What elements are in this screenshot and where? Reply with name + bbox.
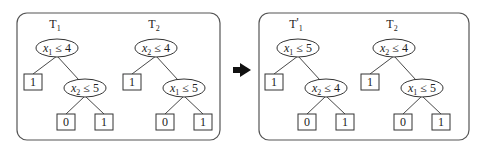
leaf-value: 1 [129, 75, 135, 89]
leaf-value: 1 [367, 75, 373, 89]
root-condition: x2 ≤ 4 [379, 41, 408, 57]
tree-t1: T1x1 ≤ 41x2 ≤ 501 [24, 17, 113, 130]
tree-t2: T2x2 ≤ 41x1 ≤ 501 [123, 17, 212, 130]
internal-condition: x2 ≤ 4 [311, 81, 340, 97]
tree-t1-prime: T'1x1 ≤ 51x2 ≤ 401 [265, 15, 354, 130]
root-condition: x2 ≤ 4 [141, 41, 170, 57]
leaf-value: 1 [271, 75, 277, 89]
leaf-value: 1 [30, 75, 36, 89]
tree-diagram: T1x1 ≤ 41x2 ≤ 501 T2x2 ≤ 41x1 ≤ 501 T'1x… [0, 0, 482, 148]
leaf-value: 1 [101, 115, 107, 129]
arrow-right-icon [233, 63, 251, 77]
internal-condition: x2 ≤ 5 [70, 81, 99, 97]
leaf-value: 1 [438, 115, 444, 129]
tree-label: T2 [148, 17, 159, 33]
leaf-value: 1 [342, 115, 348, 129]
tree-label: T2 [386, 17, 397, 33]
leaf-value: 1 [200, 115, 206, 129]
leaf-value: 0 [63, 115, 69, 129]
tree-label: T'1 [289, 15, 303, 33]
root-condition: x1 ≤ 4 [42, 41, 71, 57]
root-condition: x1 ≤ 5 [283, 41, 312, 57]
tree-t2-after: T2x2 ≤ 41x1 ≤ 501 [361, 17, 450, 130]
leaf-value: 0 [162, 115, 168, 129]
tree-label: T1 [49, 17, 60, 33]
panel-before [17, 13, 220, 140]
leaf-value: 0 [304, 115, 310, 129]
internal-condition: x1 ≤ 5 [407, 81, 436, 97]
leaf-value: 0 [400, 115, 406, 129]
internal-condition: x1 ≤ 5 [169, 81, 198, 97]
